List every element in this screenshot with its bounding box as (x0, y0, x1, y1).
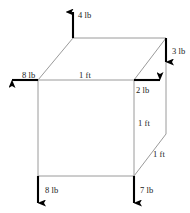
force-label-4lb-top-back-left: 4 lb (78, 11, 91, 20)
force-vector-arrows (12, 12, 166, 203)
force-label-2lb-top-front-right: 2 lb (136, 86, 149, 95)
force-label-7lb-bottom-front-right: 7 lb (140, 186, 153, 195)
force-label-3lb-top-back-right: 3 lb (172, 47, 185, 56)
dimension-label-right-vertical-edge: 1 ft (138, 119, 150, 128)
force-label-8lb-bottom-front-left: 8 lb (45, 186, 58, 195)
dimension-label-top-edge: 1 ft (79, 71, 91, 80)
cube-hidden-back-edges (38, 38, 166, 80)
cube-front-face-edges (38, 80, 134, 176)
cube-force-diagram-svg (0, 0, 190, 213)
force-diagram-figure: 4 lb 3 lb 8 lb 2 lb 8 lb 7 lb 1 ft 1 ft … (0, 0, 190, 213)
dimension-label-depth-diagonal-edge: 1 ft (153, 150, 165, 159)
force-label-8lb-top-front-left: 8 lb (22, 71, 35, 80)
